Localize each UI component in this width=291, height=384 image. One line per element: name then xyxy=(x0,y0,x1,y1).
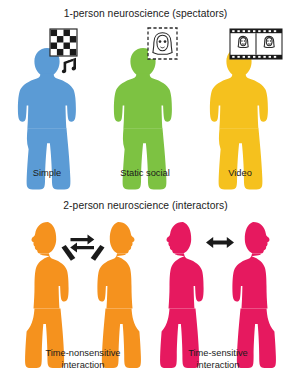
dyad-label-line2: interaction xyxy=(163,360,273,372)
static-face-photo-icon xyxy=(148,28,177,59)
dyad-label-line1: Time-nonsensitive xyxy=(28,348,138,360)
panel-title-two-person: 2-person neuroscience (interactors) xyxy=(0,200,291,211)
figure-canvas: 1-person neuroscience (spectators) 2-per… xyxy=(0,0,291,384)
dyad-label-line2: interaction xyxy=(28,360,138,372)
person-label-simple: Simple xyxy=(12,168,82,180)
bottom-edge-divider xyxy=(0,378,291,379)
bidirectional-arrow-icon xyxy=(206,237,234,248)
person-group-orange-right xyxy=(97,222,141,368)
pointing-arm-right-icon xyxy=(91,245,105,261)
panel-title-one-person: 1-person neuroscience (spectators) xyxy=(0,8,291,19)
person-label-video: Video xyxy=(205,168,275,180)
dyad-label-time-nonsensitive: Time-nonsensitive interaction xyxy=(28,348,138,371)
music-notes-icon xyxy=(62,58,76,73)
person-group-pink-left xyxy=(160,222,204,368)
dyad-label-time-sensitive: Time-sensitive interaction xyxy=(163,348,273,371)
person-group-pink-right xyxy=(232,222,276,368)
dyad-label-line1: Time-sensitive xyxy=(163,348,273,360)
person-group-orange-left xyxy=(25,222,69,368)
figure-artwork xyxy=(0,0,291,384)
film-strip-faces-icon xyxy=(230,29,282,59)
pointing-arm-left-icon xyxy=(62,245,76,261)
checkerboard-icon xyxy=(50,29,77,56)
turn-taking-arrows-icon xyxy=(70,235,94,253)
person-label-static-social: Static social xyxy=(105,168,185,180)
